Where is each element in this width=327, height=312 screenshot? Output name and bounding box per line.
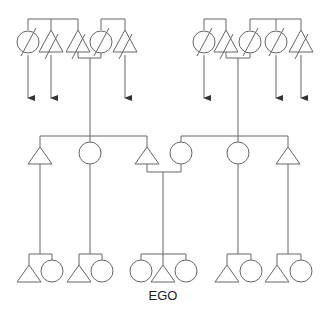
aunt-symbol [79,142,101,164]
cousin-female-symbol [240,260,262,282]
female-deceased-symbol [193,28,215,56]
father-symbol [135,147,159,164]
uncle-symbol [28,147,52,164]
cousin-female-symbol [290,260,312,282]
male-deceased-symbol [113,30,137,59]
mother-symbol [170,142,192,164]
paternal-grandparents-group [17,19,137,136]
female-deceased-symbol [17,28,39,56]
ego-generation [17,254,312,282]
female-deceased-symbol [265,28,287,56]
cousin-female-symbol [91,260,113,282]
sister-symbol [130,260,152,282]
cousin-male-symbol [265,265,289,282]
parents-generation [28,136,300,254]
cousin-male-symbol [67,265,91,282]
male-deceased-symbol [39,30,63,59]
male-deceased-symbol [289,30,313,59]
ego-symbol [151,265,175,282]
sister-symbol [175,260,197,282]
uncle-symbol [276,147,300,164]
grandmother-deceased-symbol [90,28,112,56]
cousin-female-symbol [41,260,63,282]
maternal-grandparents-group [193,19,313,136]
kinship-diagram [0,0,327,312]
grandmother-deceased-symbol [239,28,261,56]
cousin-male-symbol [215,265,239,282]
aunt-symbol [227,142,249,164]
ego-label: EGO [143,288,183,303]
cousin-male-symbol [17,265,41,282]
